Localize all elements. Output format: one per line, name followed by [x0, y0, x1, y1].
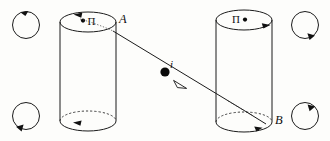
- point-label-a: A: [118, 12, 127, 26]
- circulation-arrow-top-right-head: [307, 33, 315, 40]
- cylinder-left: Π A: [60, 12, 127, 131]
- cylinder-right-base-back: [216, 112, 272, 122]
- cylinder-left-base-back: [60, 111, 116, 121]
- current-label-i: i: [170, 58, 173, 70]
- circulation-arrow-top-left: [13, 11, 40, 39]
- circulation-arrow-top-right: [292, 12, 319, 41]
- cylinder-right-axis-dot: [243, 18, 247, 22]
- circulation-arrow-top-right-ring: [292, 12, 319, 39]
- current-line-segment-outer: [113, 31, 245, 111]
- cylinder-left-axis-dot: [81, 19, 85, 23]
- circulation-arrow-top-left-ring: [13, 12, 40, 39]
- cylinder-left-pi-label: Π: [88, 15, 96, 27]
- circulation-arrow-bottom-left: [13, 103, 40, 132]
- cylinder-left-base-arrow: [73, 121, 82, 126]
- point-label-b: B: [275, 113, 283, 127]
- current-direction-arrowhead: [174, 80, 187, 88]
- current-line: i: [113, 31, 266, 124]
- cylinder-diagram: Π A Π B: [0, 0, 330, 141]
- current-marker-dot: [160, 67, 169, 76]
- cylinder-right-pi-label: Π: [232, 13, 240, 25]
- cylinder-left-base-front: [60, 121, 116, 131]
- circulation-arrow-bottom-right: [292, 103, 319, 130]
- cylinder-right-base-front: [216, 122, 272, 132]
- circulation-arrow-bottom-left-ring: [13, 103, 40, 130]
- figure-container: Π A Π B: [0, 0, 330, 141]
